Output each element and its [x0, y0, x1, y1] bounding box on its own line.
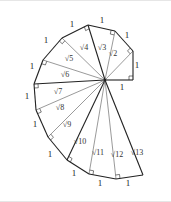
- unit-length-label: 1: [98, 178, 103, 188]
- hypotenuse-label: √8: [56, 103, 64, 112]
- unit-length-label: 1: [125, 30, 130, 40]
- radial-line: [36, 80, 105, 110]
- unit-length-label: 1: [48, 149, 53, 159]
- radial-line: [34, 80, 105, 84]
- center-point: [104, 79, 107, 82]
- radial-line: [89, 80, 105, 174]
- unit-length-label: 1: [33, 119, 38, 129]
- unit-edge: [62, 25, 88, 38]
- hypotenuse-label: √12: [111, 150, 123, 159]
- hypotenuse-label: √11: [92, 148, 104, 157]
- unit-edge: [36, 110, 48, 137]
- hypotenuse-label: √2: [109, 49, 117, 58]
- hypotenuse-label: √9: [63, 120, 71, 129]
- unit-length-label: 1: [120, 82, 125, 92]
- unit-length-label: 1: [72, 168, 77, 178]
- right-angle-marker: [129, 76, 133, 80]
- right-angle-marker: [59, 41, 64, 44]
- unit-length-label: 1: [70, 19, 75, 29]
- hypotenuse-label: √10: [74, 137, 86, 146]
- hypotenuse-label: √7: [54, 87, 62, 96]
- unit-edge: [88, 25, 115, 31]
- hypotenuse-label: √13: [131, 148, 143, 157]
- right-angle-marker: [128, 48, 131, 54]
- unit-length-label: 1: [126, 178, 131, 188]
- hypotenuse-label: √5: [65, 54, 73, 63]
- spiral-of-theodorus-diagram: 1111111111111√2√3√4√5√6√7√8√9√10√11√12√1…: [0, 0, 171, 202]
- radial-line: [105, 80, 143, 175]
- unit-length-label: 1: [30, 61, 35, 71]
- unit-edge: [89, 174, 116, 179]
- hypotenuse-label: √3: [98, 43, 106, 52]
- unit-length-label: 1: [135, 60, 140, 70]
- hypotenuse-label: √6: [61, 70, 69, 79]
- right-angle-marker: [51, 134, 54, 140]
- radial-line: [43, 60, 105, 80]
- unit-length-label: 1: [44, 35, 49, 45]
- right-angle-marker: [116, 174, 120, 178]
- unit-length-label: 1: [25, 91, 30, 101]
- unit-length-label: 1: [100, 15, 105, 25]
- hypotenuse-label: √4: [80, 43, 88, 52]
